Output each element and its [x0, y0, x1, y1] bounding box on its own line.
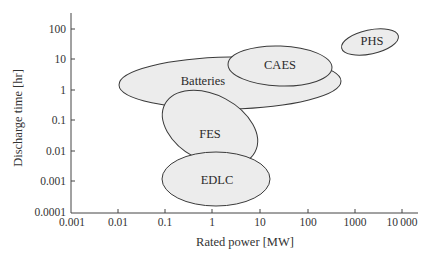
y-tick-label: 0.01: [46, 145, 66, 157]
regions: [119, 24, 401, 206]
label-batteries: Batteries: [181, 74, 226, 88]
label-fes: FES: [199, 127, 221, 141]
chart: Batteries CAES PHS FES EDLC 100 10 1 0.1…: [0, 0, 431, 259]
x-tick-label: 1: [209, 216, 215, 228]
label-phs: PHS: [361, 34, 384, 48]
y-tick-label: 100: [49, 23, 67, 35]
x-tick-labels: 0.001 0.01 0.1 1 10 100 1000 10 000: [59, 216, 418, 228]
y-tick-label: 1: [60, 84, 66, 96]
x-tick-label: 0.01: [108, 216, 128, 228]
y-tick-label: 0.1: [52, 114, 67, 126]
x-tick-label: 10 000: [386, 216, 417, 228]
y-tick-labels: 100 10 1 0.1 0.01 0.001 0.0001: [34, 23, 66, 218]
x-tick-label: 0.001: [59, 216, 85, 228]
x-axis-title: Rated power [MW]: [196, 235, 294, 249]
x-tick-label: 1000: [344, 216, 367, 228]
y-tick-label: 10: [55, 53, 67, 65]
x-tick-label: 100: [299, 216, 317, 228]
x-tick-label: 0.1: [158, 216, 173, 228]
y-tick-label: 0.001: [40, 175, 66, 187]
x-tick-label: 10: [254, 216, 266, 228]
label-edlc: EDLC: [201, 173, 234, 187]
y-axis-title: Discharge time [hr]: [11, 69, 25, 167]
label-caes: CAES: [264, 58, 296, 72]
